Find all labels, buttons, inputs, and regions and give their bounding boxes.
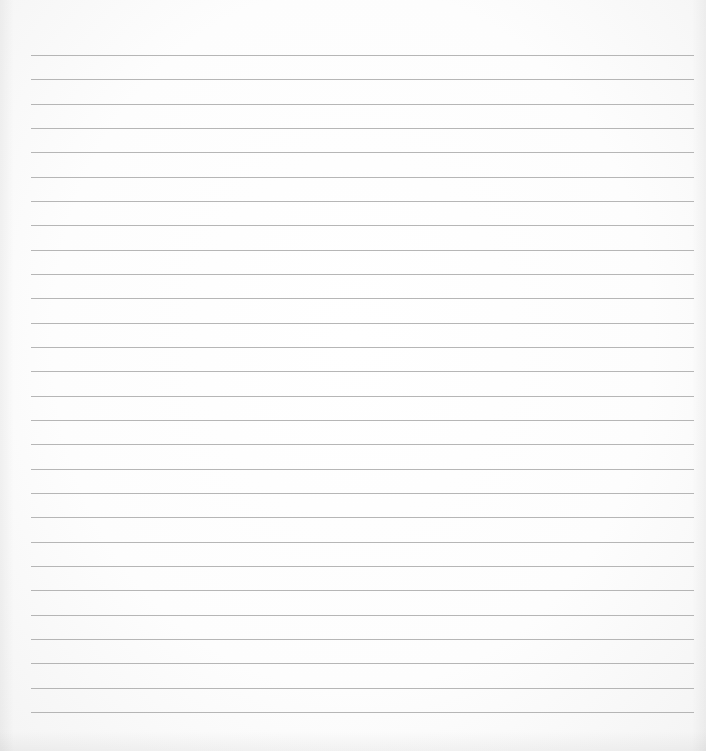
ruled-line	[31, 250, 694, 251]
ruled-line	[31, 274, 694, 275]
ruled-line	[31, 201, 694, 202]
right-edge-shadow	[692, 0, 706, 751]
ruled-line	[31, 469, 694, 470]
ruled-line	[31, 225, 694, 226]
ruled-line	[31, 152, 694, 153]
ruled-line	[31, 371, 694, 372]
ruled-line	[31, 663, 694, 664]
ruled-line	[31, 712, 694, 713]
ruled-line	[31, 104, 694, 105]
ruled-line	[31, 590, 694, 591]
ruled-line	[31, 493, 694, 494]
ruled-line	[31, 542, 694, 543]
left-edge-shadow	[0, 0, 14, 751]
ruled-line	[31, 517, 694, 518]
ruled-line	[31, 688, 694, 689]
bottom-edge-shadow	[0, 731, 706, 751]
ruled-line	[31, 298, 694, 299]
ruled-line	[31, 615, 694, 616]
ruled-line	[31, 444, 694, 445]
ruled-line	[31, 396, 694, 397]
ruled-line	[31, 347, 694, 348]
ruled-line	[31, 128, 694, 129]
ruled-line	[31, 420, 694, 421]
lined-paper-sheet	[0, 0, 706, 751]
ruled-line	[31, 566, 694, 567]
ruled-line	[31, 177, 694, 178]
ruled-line	[31, 639, 694, 640]
ruled-line	[31, 79, 694, 80]
ruled-line	[31, 323, 694, 324]
ruled-line	[31, 55, 694, 56]
